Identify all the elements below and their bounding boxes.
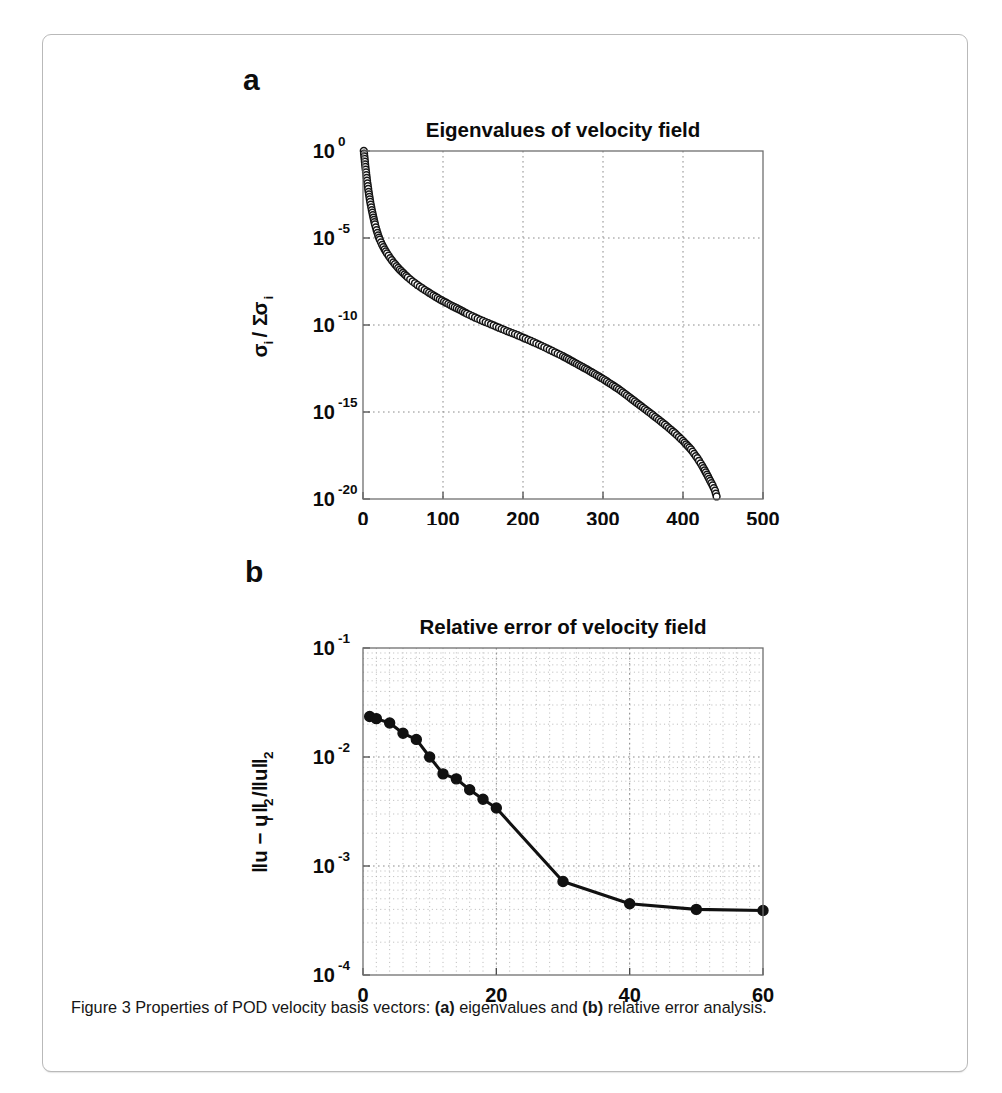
panel-b-chart: Relative error of velocity field10-110-2…: [163, 540, 823, 1010]
y-axis-title-part: i: [261, 296, 276, 300]
y-tick-label: 10-15: [313, 395, 358, 423]
caption-b-tag: (b): [582, 998, 603, 1016]
y-tick-exponent: -15: [338, 395, 358, 410]
chart-title: Eigenvalues of velocity field: [426, 118, 701, 141]
x-tick-label: 100: [426, 508, 459, 525]
data-point-marker: [425, 752, 435, 762]
y-tick-exponent: -2: [338, 740, 350, 755]
data-point-marker: [691, 904, 701, 914]
panel-a-chart: Eigenvalues of velocity field10010-510-1…: [163, 55, 823, 525]
y-axis-title-part: ‖u − u: [248, 814, 271, 873]
data-point-marker: [478, 794, 488, 804]
y-tick-mantissa: 10: [313, 964, 335, 986]
data-point-marker: [558, 877, 568, 887]
y-axis-title: σi / Σ σi: [248, 296, 276, 358]
data-point-marker: [385, 718, 395, 728]
data-point-marker: [398, 728, 408, 738]
y-axis-title-part: r: [261, 815, 276, 821]
y-axis-title-part: /‖u‖: [248, 758, 271, 797]
y-tick-label: 10-20: [313, 482, 358, 510]
y-tick-mantissa: 10: [313, 746, 335, 768]
x-tick-label: 200: [506, 508, 539, 525]
y-tick-label: 10-1: [313, 631, 351, 659]
y-tick-mantissa: 10: [313, 488, 335, 510]
data-point-marker: [451, 774, 461, 784]
x-tick-label: 0: [357, 508, 368, 525]
y-tick-label: 10-10: [313, 308, 358, 336]
y-tick-label: 10-2: [313, 740, 350, 768]
data-point-marker: [465, 785, 475, 795]
x-tick-label: 500: [746, 508, 779, 525]
y-tick-exponent: -3: [338, 849, 350, 864]
caption-prefix: Figure 3 Properties of POD velocity basi…: [71, 998, 435, 1016]
y-axis-title-part: / Σ: [248, 314, 271, 338]
y-axis-title-part: i: [261, 341, 276, 345]
caption-a-tag: (a): [435, 998, 455, 1016]
y-tick-mantissa: 10: [313, 227, 335, 249]
y-tick-label: 10-5: [313, 221, 351, 249]
y-axis-title-part: σ: [248, 343, 271, 357]
chart-title: Relative error of velocity field: [419, 615, 706, 638]
y-tick-exponent: -5: [338, 221, 350, 236]
y-axis-title: ‖u − ur‖2/‖u‖2: [248, 751, 276, 873]
data-point-marker: [625, 899, 635, 909]
y-tick-exponent: 0: [338, 134, 346, 149]
x-tick-label: 300: [586, 508, 619, 525]
y-axis-title-part: 2: [261, 798, 276, 806]
y-tick-exponent: -10: [338, 308, 358, 323]
data-point-marker: [411, 734, 421, 744]
y-tick-label: 100: [313, 134, 346, 162]
y-tick-mantissa: 10: [313, 314, 335, 336]
y-tick-exponent: -20: [338, 482, 358, 497]
y-tick-mantissa: 10: [313, 140, 335, 162]
data-point-marker: [371, 714, 381, 724]
caption-suffix: relative error analysis.: [603, 998, 767, 1016]
x-tick-label: 400: [666, 508, 699, 525]
data-point-marker: [491, 803, 501, 813]
y-axis-title-part: σ: [248, 301, 271, 315]
figure-body: a b Eigenvalues of velocity field10010-5…: [43, 35, 969, 1073]
y-tick-mantissa: 10: [313, 855, 335, 877]
y-axis-title-part: 2: [261, 751, 276, 759]
caption-mid: eigenvalues and: [455, 998, 583, 1016]
y-tick-label: 10-4: [313, 958, 351, 986]
y-tick-mantissa: 10: [313, 637, 335, 659]
data-point-marker: [438, 769, 448, 779]
figure-caption: Figure 3 Properties of POD velocity basi…: [71, 997, 951, 1018]
y-tick-exponent: -4: [338, 958, 350, 973]
figure-card: a b Eigenvalues of velocity field10010-5…: [42, 34, 968, 1072]
y-tick-mantissa: 10: [313, 401, 335, 423]
y-tick-label: 10-3: [313, 849, 351, 877]
y-tick-exponent: -1: [338, 631, 350, 646]
